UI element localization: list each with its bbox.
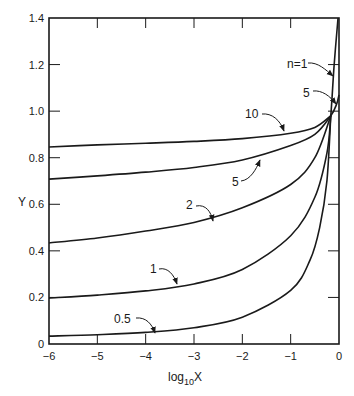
x-axis-label: log10X <box>168 370 202 387</box>
curve-label-text: 1 <box>150 262 157 276</box>
curve-n-2 <box>49 116 331 243</box>
arrow-icon <box>159 269 177 284</box>
curve-label-text: 0.5 <box>114 312 131 326</box>
x-tick-label: 0 <box>336 350 342 362</box>
x-axis-label-base: log <box>168 370 184 384</box>
x-tick-label: −2 <box>236 350 249 362</box>
curve-label-text: 5 <box>303 86 310 100</box>
x-tick-label: −4 <box>139 350 152 362</box>
curve-n-0_5 <box>49 116 331 336</box>
chart: −6−5−4−3−2−1000.20.40.60.81.01.21.4 Y lo… <box>0 0 354 396</box>
arrow-icon <box>136 318 155 333</box>
y-tick-label: 0.2 <box>29 291 44 303</box>
x-tick-label: −6 <box>43 350 56 362</box>
y-tick-label: 0 <box>38 338 44 350</box>
curve-label-text: 2 <box>186 198 193 212</box>
y-tick-label: 1.2 <box>29 59 44 71</box>
y-axis-label: Y <box>18 195 26 209</box>
x-tick-label: −1 <box>284 350 297 362</box>
y-tick-label: 0.4 <box>29 245 44 257</box>
curve-label-n1-top: n=1 <box>287 57 333 76</box>
x-tick-label: −5 <box>91 350 104 362</box>
curve-label-text: 5 <box>232 175 239 189</box>
curve-label-n2: 2 <box>186 198 213 221</box>
y-tick-label: 1.4 <box>29 12 44 24</box>
curve-label-n5-mid: 5 <box>232 160 260 189</box>
y-tick-label: 0.8 <box>29 152 44 164</box>
x-tick-label: −3 <box>188 350 201 362</box>
arrow-icon <box>241 160 260 181</box>
curve-n-10 <box>49 116 331 147</box>
curve-label-text: 10 <box>245 107 259 121</box>
curve-label-n05: 0.5 <box>114 312 155 333</box>
curve-label-text: n=1 <box>287 57 308 71</box>
x-axis-label-var: X <box>194 370 202 384</box>
x-axis-label-sub: 10 <box>184 377 194 387</box>
curve-n-5 <box>49 95 339 179</box>
arrow-icon <box>262 114 284 131</box>
y-tick-label: 1.0 <box>29 105 44 117</box>
curve-label-n1-low: 1 <box>150 262 177 284</box>
curve-label-n10: 10 <box>245 107 284 131</box>
y-tick-label: 0.6 <box>29 198 44 210</box>
